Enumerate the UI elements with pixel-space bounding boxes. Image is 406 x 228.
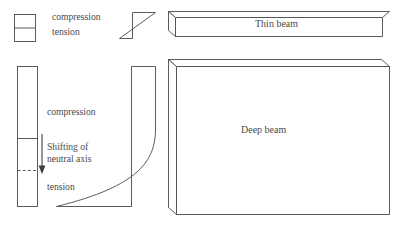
label-compression-thin: compression [52,12,101,22]
label-tension-deep: tension [47,182,75,192]
thin-beam-cross-section [15,15,36,42]
beam-stress-diagram: compression tension Thin beam compressio… [0,0,406,228]
label-tension-thin: tension [52,27,80,37]
neutral-axis-shift-arrow [39,134,46,174]
label-thin-beam: Thin beam [255,19,298,30]
linear-stress-profile [120,13,156,39]
deep-beam-solid [169,60,390,215]
label-deep-beam: Deep beam [241,125,286,136]
label-compression-deep: compression [47,107,96,117]
deep-beam-cross-section [18,67,38,207]
label-shifting-of: Shifting of [47,142,88,152]
label-neutral-axis: neutral axis [47,154,92,164]
